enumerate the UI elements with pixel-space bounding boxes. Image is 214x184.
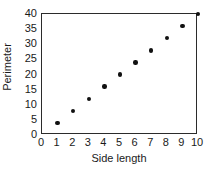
x-tick-label: 0 xyxy=(38,136,44,149)
x-tick-label: 2 xyxy=(69,136,75,149)
y-tick-label: 5 xyxy=(31,113,37,124)
data-point xyxy=(180,24,184,28)
data-point xyxy=(118,72,122,76)
data-point-layer xyxy=(42,14,196,133)
data-point xyxy=(196,12,200,16)
x-tick-label: 4 xyxy=(100,136,106,149)
y-tick-label: 40 xyxy=(25,8,37,19)
x-axis-title: Side length xyxy=(41,152,197,164)
x-tick-label: 3 xyxy=(85,136,91,149)
y-tick-label: 35 xyxy=(25,23,37,34)
x-tick-label: 8 xyxy=(163,136,169,149)
y-axis-title-label: Perimeter xyxy=(1,43,13,91)
plot-area xyxy=(41,13,197,134)
y-tick-label: 30 xyxy=(25,38,37,49)
y-tick-label: 0 xyxy=(31,129,37,140)
data-point xyxy=(102,84,106,88)
data-point xyxy=(149,48,153,52)
y-tick-label: 20 xyxy=(25,68,37,79)
scatter-chart: Perimeter 0510152025303540 012345678910 … xyxy=(0,0,214,184)
data-point xyxy=(133,60,137,64)
y-axis-title: Perimeter xyxy=(0,0,14,134)
x-tick-label: 10 xyxy=(191,136,203,149)
x-tick-label: 9 xyxy=(178,136,184,149)
y-tick-label: 15 xyxy=(25,83,37,94)
y-tick-label: 25 xyxy=(25,53,37,64)
y-tick-label: 10 xyxy=(25,98,37,109)
x-tick-label: 5 xyxy=(116,136,122,149)
x-axis-tick-labels: 012345678910 xyxy=(41,136,197,151)
x-tick-label: 1 xyxy=(54,136,60,149)
data-point xyxy=(87,97,91,101)
y-axis-tick-labels: 0510152025303540 xyxy=(14,8,39,134)
x-tick-label: 7 xyxy=(147,136,153,149)
data-point xyxy=(71,109,75,113)
data-point xyxy=(55,121,59,125)
x-tick-label: 6 xyxy=(132,136,138,149)
data-point xyxy=(165,36,169,40)
